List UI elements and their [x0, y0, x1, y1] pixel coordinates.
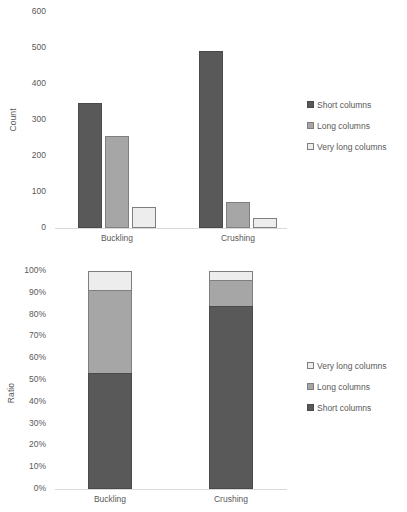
bar-crushing-short-columns	[199, 51, 223, 228]
chart-bottom-ytick-10: 0%	[18, 484, 46, 493]
chart-top-ytick-1: 500	[18, 43, 46, 52]
chart-bottom-ytick-1: 90%	[18, 288, 46, 297]
chart-bottom-ytick-0: 100%	[18, 266, 46, 275]
legend-swatch-short-columns-icon	[307, 404, 314, 411]
bar-crushing-long-columns	[226, 202, 250, 228]
chart-top-ytick-0: 600	[18, 7, 46, 16]
legend-swatch-very-long-columns-icon	[307, 362, 314, 369]
chart-bottom-ytick-7: 30%	[18, 419, 46, 428]
legend-item-short-columns[interactable]: Short columns	[307, 402, 386, 413]
chart-bottom-ytick-5: 50%	[18, 375, 46, 384]
chart-bottom-ytick-6: 40%	[18, 397, 46, 406]
bar-buckling-very-long-columns	[132, 207, 156, 228]
legend-label-very-long-columns: Very long columns	[317, 142, 386, 152]
chart-top-xtick-buckling: Buckling	[82, 233, 152, 243]
chart-top-xtick-crushing: Crushing	[203, 233, 273, 243]
legend-item-long-columns[interactable]: Long columns	[307, 120, 386, 131]
chart-bottom-ytick-3: 70%	[18, 331, 46, 340]
legend-label-long-columns: Long columns	[317, 121, 370, 131]
bar-buckling-short-columns	[78, 103, 102, 228]
legend-label-long-columns: Long columns	[317, 382, 370, 392]
chart-top-ytick-3: 300	[18, 115, 46, 124]
chart-bottom-ytick-9: 10%	[18, 462, 46, 471]
legend-item-short-columns[interactable]: Short columns	[307, 99, 386, 110]
chart-top-ytick-2: 400	[18, 79, 46, 88]
chart-top-ytick-4: 200	[18, 151, 46, 160]
chart-bottom-y-axis-title: Ratio	[6, 373, 16, 413]
chart-top-x-axis-line	[55, 228, 287, 229]
legend-swatch-long-columns-icon	[307, 122, 314, 129]
chart-bottom-ytick-2: 80%	[18, 310, 46, 319]
legend-label-short-columns: Short columns	[317, 403, 371, 413]
chart-bottom-ytick-8: 20%	[18, 440, 46, 449]
count-bar-chart: Count 600 500 400 300 200 100 0 Buckling…	[0, 0, 407, 256]
legend-label-very-long-columns: Very long columns	[317, 361, 386, 371]
chart-bottom-ytick-4: 60%	[18, 353, 46, 362]
chart-bottom-xtick-buckling: Buckling	[75, 494, 145, 504]
chart-top-y-axis-title: Count	[8, 100, 18, 140]
legend-item-very-long-columns[interactable]: Very long columns	[307, 141, 386, 152]
legend-swatch-long-columns-icon	[307, 383, 314, 390]
legend-item-very-long-columns[interactable]: Very long columns	[307, 360, 386, 371]
stack-buckling-short-columns	[88, 373, 132, 489]
legend-item-long-columns[interactable]: Long columns	[307, 381, 386, 392]
chart-top-ytick-5: 100	[18, 187, 46, 196]
chart-bottom-legend: Very long columns Long columns Short col…	[307, 360, 386, 423]
chart-top-ytick-6: 0	[18, 223, 46, 232]
bar-crushing-very-long-columns	[253, 218, 277, 228]
ratio-stacked-bar-chart: Ratio 100% 90% 80% 70% 60% 50% 40% 30% 2…	[0, 256, 407, 512]
legend-swatch-short-columns-icon	[307, 101, 314, 108]
legend-label-short-columns: Short columns	[317, 100, 371, 110]
stack-crushing-short-columns	[209, 306, 253, 489]
legend-swatch-very-long-columns-icon	[307, 143, 314, 150]
chart-bottom-xtick-crushing: Crushing	[196, 494, 266, 504]
stack-buckling-long-columns	[88, 290, 132, 374]
stack-buckling-very-long-columns	[88, 271, 132, 291]
stack-crushing-long-columns	[209, 280, 253, 307]
chart-top-legend: Short columns Long columns Very long col…	[307, 99, 386, 162]
chart-bottom-x-axis-line	[55, 489, 287, 490]
bar-buckling-long-columns	[105, 136, 129, 228]
